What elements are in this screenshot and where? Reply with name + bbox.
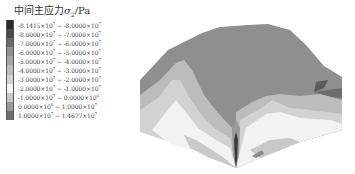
legend-row: -7.0000×107 ~ -6.0000×107 — [6, 38, 136, 47]
legend-row: -5.0000×107 ~ -4.0000×107 — [6, 56, 136, 65]
legend-label: -4.0000×107 ~ -3.0000×107 — [18, 66, 101, 74]
legend-label: -7.0000×107 ~ -6.0000×107 — [18, 39, 101, 47]
legend-row: -8.0000×107 ~ -7.0000×107 — [6, 29, 136, 38]
legend-swatch — [6, 111, 14, 120]
legend-swatch — [6, 38, 14, 47]
legend-row: -1.0000×107 ~ 0.0000×100 — [6, 93, 136, 102]
legend-swatch — [6, 56, 14, 65]
legend-label: -3.0000×107 ~ -2.0000×107 — [18, 75, 101, 83]
legend-swatch — [6, 102, 14, 111]
legend-swatch — [6, 93, 14, 102]
legend-swatch — [6, 84, 14, 93]
legend-title: 中间主应力σ2/Pa — [14, 4, 136, 18]
legend-swatch — [6, 75, 14, 84]
legend-label: -2.0000×107 ~ -1.0000×107 — [18, 84, 101, 92]
legend-row: 1.0000×107 ~ 1.4677×107 — [6, 111, 136, 120]
legend-row: 0.0000×100 ~ 1.0000×107 — [6, 102, 136, 111]
legend-title-text: 中间主应力 — [14, 5, 64, 16]
legend-label: 0.0000×100 ~ 1.0000×107 — [18, 102, 97, 110]
legend-swatch — [6, 20, 14, 29]
legend-row: -4.0000×107 ~ -3.0000×107 — [6, 65, 136, 74]
legend-swatch — [6, 65, 14, 74]
legend-swatch — [6, 47, 14, 56]
legend-row: -6.0000×107 ~ -5.0000×107 — [6, 47, 136, 56]
legend-label: -5.0000×107 ~ -4.0000×107 — [18, 57, 101, 65]
stress-contour-graphic — [140, 0, 355, 174]
legend-rows: -8.1415×107 ~ -8.0000×107-8.0000×107 ~ -… — [6, 20, 136, 120]
sigma-symbol: σ — [64, 5, 71, 16]
legend-label: 1.0000×107 ~ 1.4677×107 — [18, 111, 97, 119]
legend: 中间主应力σ2/Pa -8.1415×107 ~ -8.0000×107-8.0… — [6, 4, 136, 120]
contour-plot — [140, 0, 355, 174]
legend-row: -8.1415×107 ~ -8.0000×107 — [6, 20, 136, 29]
legend-label: -1.0000×107 ~ 0.0000×100 — [18, 93, 99, 101]
legend-label: -6.0000×107 ~ -5.0000×107 — [18, 48, 101, 56]
legend-label: -8.1415×107 ~ -8.0000×107 — [18, 21, 101, 29]
legend-label: -8.0000×107 ~ -7.0000×107 — [18, 30, 101, 38]
legend-row: -3.0000×107 ~ -2.0000×107 — [6, 75, 136, 84]
legend-row: -2.0000×107 ~ -1.0000×107 — [6, 84, 136, 93]
legend-unit: /Pa — [75, 5, 91, 16]
legend-swatch — [6, 29, 14, 38]
